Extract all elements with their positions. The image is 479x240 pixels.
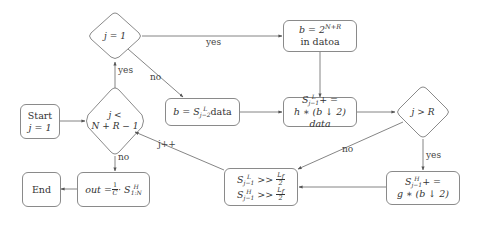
edge-shift-to-loop xyxy=(135,132,224,170)
edge-label-loop-no: no xyxy=(118,152,129,162)
shift-row2-den: 2 xyxy=(276,195,285,202)
shift-row1-frac: Lf2 xyxy=(276,172,285,187)
end-label: End xyxy=(32,184,51,196)
shift-node: SLj−1 >> Lf2 SHj−1 >> Lf2 xyxy=(224,168,298,206)
b-init-line2: in datoa xyxy=(300,36,339,48)
sh-update-node: SHj−1+ = g ∗ (b ↓ 2) xyxy=(386,171,460,205)
loop-check-label: j < N + R − 1 xyxy=(85,108,145,134)
edge-label-j1-yes: yes xyxy=(206,37,221,47)
shift-row2-frac: Lf2 xyxy=(276,187,285,202)
sl-suffix: + = xyxy=(319,94,338,106)
end-node: End xyxy=(22,172,61,207)
edge-label-jr-no: no xyxy=(342,144,353,154)
shift-row2-op: >> xyxy=(254,189,276,201)
loop-check-line1: j < xyxy=(108,110,121,121)
output-mid: · S xyxy=(118,184,131,196)
sh-suffix: + = xyxy=(422,176,441,188)
j-eq-1-text: j = 1 xyxy=(104,31,126,42)
j-eq-1-label: j = 1 xyxy=(95,28,135,44)
edge-label-increment: j++ xyxy=(158,139,176,149)
b-init-node: b = 2N+R in datoa xyxy=(283,20,357,52)
edge-label-jr-yes: yes xyxy=(426,150,441,160)
start-init: j = 1 xyxy=(29,122,52,134)
b-assign-node: b = SLj−2 data xyxy=(165,98,240,126)
edge-label-j1-no: no xyxy=(150,72,161,82)
edge-label-loop-yes: yes xyxy=(118,65,133,75)
sh-line2: g ∗ (b ↓ 2) xyxy=(397,188,449,200)
shift-row1-sub: j−1 xyxy=(244,180,255,186)
b-assign-prefix: b = S xyxy=(173,106,200,118)
start-label: Start xyxy=(28,110,52,122)
j-gt-r-text: j > R xyxy=(412,107,435,118)
sl-line2: h ∗ (b ↓ 2) data xyxy=(284,106,356,130)
b-init-exponent: N+R xyxy=(325,23,341,31)
start-node: Start j = 1 xyxy=(20,104,60,139)
b-assign-sub: j−2 xyxy=(200,112,211,118)
output-prefix: out = xyxy=(85,184,112,196)
shift-row2-sub: j−1 xyxy=(244,195,255,201)
sl-update-node: SLj−1+ = h ∗ (b ↓ 2) data xyxy=(283,97,357,127)
shift-row1-op: >> xyxy=(254,174,276,186)
shift-row-2: SHj−1 >> Lf2 xyxy=(237,187,285,202)
shift-row-1: SLj−1 >> Lf2 xyxy=(237,172,285,187)
loop-check-line2: N + R − 1 xyxy=(92,121,139,132)
b-init-line1: b = 2 xyxy=(299,24,325,35)
b-assign-suffix: data xyxy=(211,106,232,118)
output-node: out = 1 C · SH1:N xyxy=(77,172,150,207)
output-sub: 1:N xyxy=(131,190,142,196)
j-gt-r-label: j > R xyxy=(403,104,443,120)
